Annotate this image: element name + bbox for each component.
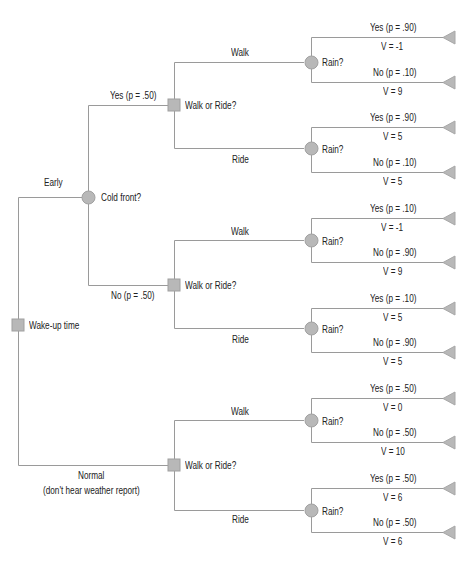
chance-node-label: Rain? [322, 236, 343, 248]
outcome-label: No (p = .90) [373, 247, 417, 259]
outcome-label: Yes (p = .10) [370, 293, 416, 305]
terminal-node-icon [443, 482, 455, 495]
outcome-label: No (p = .50) [373, 517, 417, 529]
terminal-node-icon [443, 392, 455, 405]
outcome-label: No (p = .10) [373, 67, 417, 79]
outcome-value: V = -1 [381, 41, 403, 53]
terminal-node-icon [443, 121, 455, 134]
terminal-node-icon [443, 436, 455, 449]
outcome-value: V = 5 [383, 356, 402, 368]
chance-node-icon [82, 191, 95, 204]
outcome-value: V = 0 [383, 402, 402, 414]
root-node-label: Wake-up time [29, 320, 79, 332]
branch-label-early: Early [44, 177, 63, 189]
outcome-value: V = 6 [383, 492, 402, 504]
branch-label-ride: Ride [232, 334, 249, 346]
branch-label-no: No (p = .50) [111, 290, 155, 302]
chance-node-icon [305, 414, 318, 427]
decision-node-icon [168, 279, 180, 291]
branch-label-ride: Ride [232, 514, 249, 526]
terminal-node-icon [443, 526, 455, 539]
branch-label-yes: Yes (p = .50) [110, 90, 156, 102]
branch-label-normal: Normal [78, 470, 104, 482]
outcome-label: Yes (p = .50) [370, 473, 416, 485]
outcome-value: V = 9 [383, 86, 402, 98]
outcome-value: V = 5 [383, 131, 402, 143]
outcome-label: Yes (p = .50) [370, 383, 416, 395]
chance-node-label: Rain? [322, 324, 343, 336]
chance-node-icon [305, 234, 318, 247]
outcome-label: Yes (p = .90) [370, 112, 416, 124]
chance-node-label: Rain? [322, 57, 343, 69]
chance-node-label: Rain? [322, 506, 343, 518]
terminal-node-icon [443, 256, 455, 269]
decision-node-label: Walk or Ride? [185, 100, 236, 112]
outcome-value: V = 10 [381, 446, 405, 458]
terminal-node-icon [443, 166, 455, 179]
chance-node-icon [305, 142, 318, 155]
terminal-node-icon [443, 76, 455, 89]
chance-node-label: Rain? [322, 416, 343, 428]
chance-node-icon [305, 322, 318, 335]
branch-label-normal-note: (don't hear weather report) [43, 485, 140, 497]
outcome-value: V = 5 [383, 176, 402, 188]
outcome-value: V = 5 [383, 312, 402, 324]
decision-node-icon [168, 99, 180, 111]
outcome-value: V = -1 [381, 222, 403, 234]
chance-node-icon [305, 56, 318, 69]
decision-node-icon [12, 319, 24, 331]
branch-label-walk: Walk [231, 47, 249, 59]
chance-node-icon [305, 504, 318, 517]
outcome-label: Yes (p = .10) [370, 203, 416, 215]
terminal-node-icon [443, 212, 455, 225]
outcome-label: No (p = .90) [373, 337, 417, 349]
outcome-label: Yes (p = .90) [370, 22, 416, 34]
chance-node-label: Cold front? [101, 192, 141, 204]
outcome-value: V = 9 [383, 266, 402, 278]
terminal-node-icon [443, 302, 455, 315]
decision-node-label: Walk or Ride? [185, 280, 236, 292]
branch-label-ride: Ride [232, 154, 249, 166]
terminal-node-icon [443, 31, 455, 44]
outcome-label: No (p = .50) [373, 427, 417, 439]
outcome-label: No (p = .10) [373, 157, 417, 169]
branch-label-walk: Walk [231, 406, 249, 418]
branch-label-walk: Walk [231, 226, 249, 238]
chance-node-label: Rain? [322, 144, 343, 156]
outcome-value: V = 6 [383, 536, 402, 548]
decision-node-label: Walk or Ride? [185, 460, 236, 472]
terminal-node-icon [443, 346, 455, 359]
decision-node-icon [168, 459, 180, 471]
